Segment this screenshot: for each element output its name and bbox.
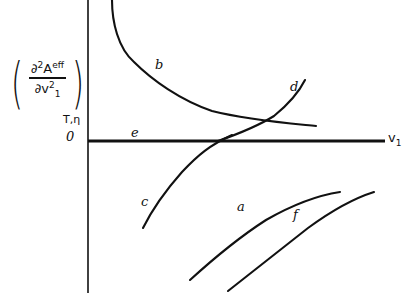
fraction-denominator: ∂v21 xyxy=(32,79,62,100)
origin-tick-label: 0 xyxy=(66,130,74,143)
curve-label-e: e xyxy=(131,126,139,139)
curve-a xyxy=(190,192,340,280)
figure-container: ( ∂2Aeff ∂v21 ) T,η 0 v1 b d e c a f xyxy=(0,0,406,293)
numerator-text: ∂ xyxy=(31,61,38,76)
x-axis-symbol: v xyxy=(388,130,396,145)
curve-label-a: a xyxy=(237,200,245,213)
curve-label-b: b xyxy=(155,58,163,71)
curve-label-d: d xyxy=(290,80,298,93)
plot-canvas xyxy=(0,0,406,293)
derivative-fraction: ∂2Aeff ∂v21 xyxy=(28,57,67,100)
numerator-superscript: eff xyxy=(52,60,64,70)
fraction-numerator: ∂2Aeff xyxy=(29,59,66,77)
curve-label-f: f xyxy=(293,208,298,221)
y-axis-held-constant-subscript: T,η xyxy=(63,113,80,126)
x-axis-label: v1 xyxy=(388,131,401,148)
curve-f xyxy=(228,192,374,291)
curve-label-c: c xyxy=(141,195,148,208)
right-paren: ) xyxy=(72,57,84,110)
numerator-symbol: A xyxy=(43,61,52,76)
curve-c xyxy=(143,135,232,228)
left-paren: ( xyxy=(11,57,23,110)
denominator-symbol: v xyxy=(41,81,49,96)
x-axis-subscript: 1 xyxy=(396,138,402,148)
denominator-subscript: 1 xyxy=(55,89,61,99)
y-axis-label: ( ∂2Aeff ∂v21 ) xyxy=(6,57,89,110)
